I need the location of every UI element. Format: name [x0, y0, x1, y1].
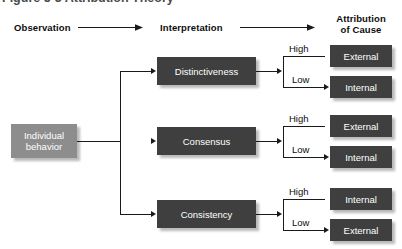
arrow-into-criterion-1: [151, 68, 156, 74]
branch-3-low-line: [283, 230, 324, 231]
outcome-box-1-high: External: [330, 45, 392, 67]
branch-3-high-line: [283, 199, 325, 200]
branch-2-high-label: High: [289, 114, 309, 124]
header-attribution-line2: of Cause: [324, 24, 398, 35]
branch-1-vertical: [283, 56, 284, 87]
branch-1-high-label: High: [289, 44, 309, 54]
connector-criterion-3-to-branch: [256, 214, 279, 215]
outcome-box-2-high: External: [330, 115, 392, 137]
connector-criterion-1-to-branch: [256, 71, 279, 72]
header-interpretation: Interpretation: [160, 22, 223, 33]
arrow-into-criterion-2: [151, 138, 156, 144]
header-arrow-observation-to-interpretation: [78, 23, 144, 32]
branch-1-low-label: Low: [292, 75, 309, 85]
individual-behavior-label-line1: Individual: [24, 130, 64, 141]
header-arrow-interpretation-to-attribution: [240, 23, 316, 32]
connector-trunk-to-criterion-1: [120, 71, 153, 72]
criterion-box-consensus: Consensus: [157, 127, 256, 155]
criterion-box-distinctiveness: Distinctiveness: [157, 57, 256, 85]
header-observation: Observation: [14, 22, 71, 33]
criterion-box-consistency: Consistency: [157, 200, 256, 228]
individual-behavior-box: Individual behavior: [11, 124, 77, 158]
figure-title: Figure 5-3 Attribution Theory: [0, 0, 402, 11]
branch-3-high-label: High: [289, 187, 309, 197]
branch-3-low-label: Low: [292, 218, 309, 228]
branch-2-low-label: Low: [292, 145, 309, 155]
figure-title-text: Figure 5-3 Attribution Theory: [2, 0, 174, 5]
branch-1-high-line: [283, 56, 325, 57]
connector-trunk-vertical: [120, 71, 121, 215]
branch-2-vertical: [283, 126, 284, 157]
arrow-into-branch-3: [277, 211, 282, 217]
header-attribution-line1: Attribution: [324, 13, 398, 24]
outcome-box-3-high: Internal: [330, 188, 392, 210]
individual-behavior-label-line2: behavior: [26, 141, 62, 152]
outcome-box-3-low: External: [330, 219, 392, 241]
arrow-into-outcome-1-low: [324, 84, 329, 90]
outcome-box-2-low: Internal: [330, 146, 392, 168]
connector-criterion-2-to-branch: [256, 141, 279, 142]
arrow-into-outcome-3-low: [324, 227, 329, 233]
arrow-into-branch-2: [277, 138, 282, 144]
arrow-into-branch-1: [277, 68, 282, 74]
outcome-box-1-low: Internal: [330, 76, 392, 98]
arrow-into-criterion-3: [151, 211, 156, 217]
branch-3-vertical: [283, 199, 284, 230]
attribution-theory-diagram: Figure 5-3 Attribution Theory Observatio…: [0, 0, 402, 249]
arrow-into-outcome-2-low: [324, 154, 329, 160]
branch-2-low-line: [283, 157, 324, 158]
branch-2-high-line: [283, 126, 325, 127]
connector-source-to-trunk: [77, 141, 120, 142]
branch-1-low-line: [283, 87, 324, 88]
connector-trunk-to-criterion-3: [120, 214, 153, 215]
